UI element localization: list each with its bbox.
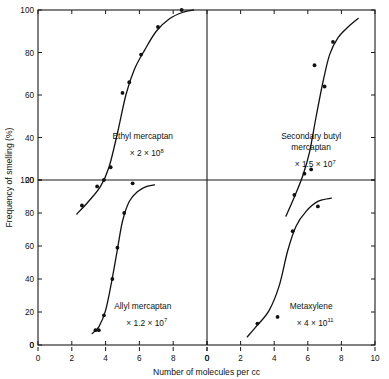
curve-top-left [77,10,194,214]
y-tick-label-bottom-left-60: 60 [25,242,35,251]
data-point-top-right-4 [323,85,327,89]
data-point-bottom-left-6 [131,181,135,185]
data-point-top-left-5 [127,80,131,84]
y-tick-label-bottom-left-20: 20 [25,308,35,317]
data-point-top-right-1 [303,172,307,176]
data-point-top-left-3 [109,165,113,169]
data-point-bottom-left-2 [102,313,106,317]
data-point-bottom-left-4 [116,246,120,250]
x-tick-label-bottom-left-6: 6 [137,354,142,363]
y-tick-label-top-left-100: 100 [20,6,34,15]
curve-top-right [286,19,358,217]
x-tick-label-bottom-right-0: 0 [205,354,210,363]
y-tick-label-top-left-80: 80 [25,49,35,58]
x-tick-label-bottom-right-10: 10 [370,354,380,363]
y-tick-label-bottom-left-100: 100 [20,176,34,185]
x-tick-label-bottom-left-8: 8 [171,354,176,363]
x-tick-label-bottom-left-4: 4 [103,354,108,363]
panel-label-top-right-line2: mercaptan [291,142,331,152]
data-point-top-left-8 [180,8,184,12]
data-point-bottom-left-3 [110,277,114,281]
data-point-top-left-4 [121,91,125,95]
curve-bottom-left [92,185,155,334]
figure-container: 20406080100Ethyl mercaptan× 2 × 108Secon… [0,0,389,379]
data-point-top-right-5 [331,40,335,44]
x-tick-label-bottom-right-8: 8 [339,354,344,363]
data-point-bottom-right-3 [316,205,320,209]
data-point-bottom-right-2 [291,229,295,233]
data-point-bottom-left-1 [97,328,101,332]
x-axis-title: Number of molecules per cc [153,367,261,377]
data-point-bottom-left-0 [94,328,98,332]
data-point-top-right-0 [292,193,296,197]
x-tick-label-bottom-left-2: 2 [70,354,75,363]
panel-multiplier-top-left: × 2 × 108 [130,148,164,159]
data-point-bottom-left-5 [122,211,126,215]
panel-label-top-left: Ethyl mercaptan [113,131,174,141]
data-point-top-left-6 [139,53,143,57]
y-tick-label-bottom-left-40: 40 [25,275,35,284]
y-tick-label-top-left-60: 60 [25,91,35,100]
x-tick-label-bottom-right-6: 6 [306,354,311,363]
x-tick-label-bottom-left-0: 0 [36,354,41,363]
panel-multiplier-top-right: × 1.5 × 107 [295,159,336,170]
data-point-top-left-0 [80,204,84,208]
data-point-top-right-3 [313,63,317,67]
data-point-top-left-7 [156,25,160,29]
panel-label-bottom-right: Metaxylene [290,301,333,311]
y-axis-title: Frequency of smelling (%) [4,127,14,227]
y-tick-label-top-left-40: 40 [25,134,35,143]
y-tick-label-origin: 0 [29,341,34,350]
data-point-top-left-1 [95,184,99,188]
multi-panel-scatter-chart: 20406080100Ethyl mercaptan× 2 × 108Secon… [0,0,389,379]
y-tick-label-bottom-left-80: 80 [25,209,35,218]
data-point-bottom-right-0 [256,322,260,326]
curve-bottom-right [247,198,331,337]
panel-multiplier-bottom-left: × 1.2 × 107 [126,317,167,328]
x-tick-label-bottom-right-2: 2 [238,354,243,363]
data-point-top-left-2 [102,178,106,182]
data-point-bottom-right-1 [276,315,280,319]
panel-label-bottom-left: Allyl mercaptan [114,301,172,311]
panel-label-top-right-line1: Secondary butyl [281,131,341,141]
x-tick-label-bottom-right-4: 4 [272,354,277,363]
panel-multiplier-bottom-right: × 4 × 1011 [297,317,334,328]
